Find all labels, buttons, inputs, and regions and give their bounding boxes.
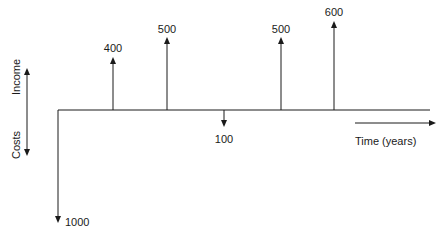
arrow-right-icon [429,120,436,126]
time-direction: Time (years) [355,120,436,147]
cash-flow-value: 100 [215,133,233,145]
arrow-up-icon [278,37,284,44]
income-costs-axis: Income Costs [10,59,30,159]
cash-flow-year-2: 500 [158,23,176,110]
cash-flow-value: 400 [104,42,122,54]
cash-flow-year-4: 500 [272,23,290,110]
cash-flow-year-3: 100 [215,110,233,145]
cash-flow-diagram: Income Costs 1000 400 500 100 [0,0,446,238]
income-arrow-up-icon [24,68,30,75]
time-label: Time (years) [355,135,416,147]
arrow-down-icon [55,216,61,223]
cash-flow-value: 1000 [65,216,89,228]
cash-flow-value: 500 [158,23,176,35]
cash-flow-value: 600 [325,6,343,18]
costs-label: Costs [10,130,22,159]
cash-flow-year-5: 600 [325,6,343,110]
arrow-down-icon [221,120,227,127]
cash-flow-value: 500 [272,23,290,35]
arrow-up-icon [164,37,170,44]
arrow-up-icon [110,57,116,64]
diagram-canvas: Income Costs 1000 400 500 100 [0,0,446,238]
cash-flow-year-0: 1000 [55,110,89,228]
arrow-up-icon [331,21,337,28]
cash-flow-year-1: 400 [104,42,122,110]
costs-arrow-down-icon [24,149,30,156]
income-label: Income [10,59,22,95]
